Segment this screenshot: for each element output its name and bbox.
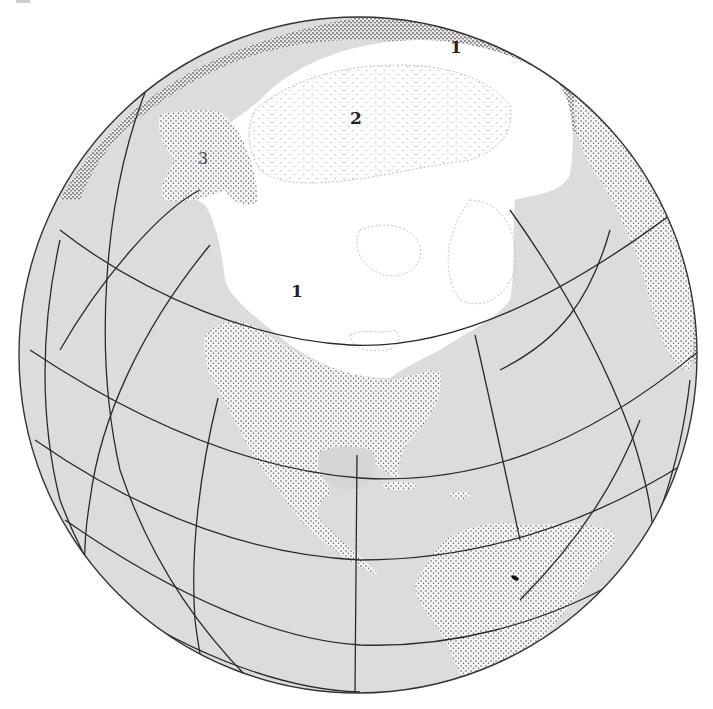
zone-label-1-central: 1 [291,281,303,301]
gulf-of-mexico [318,446,376,489]
zone-label-1-north: 1 [450,37,462,57]
hispaniola-island [450,491,470,499]
zone-label-2: 2 [350,108,362,128]
zone-label-3: 3 [198,149,208,168]
cuba-island [382,482,418,490]
globe-figure: 1 2 3 1 [0,0,713,709]
